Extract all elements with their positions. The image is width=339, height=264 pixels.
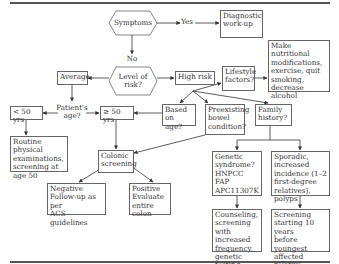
genetic-syndrome-node: Genetic syndrome? HNPCC FAP APC11307K xyxy=(212,151,262,196)
routine-exam-node: Routine physical examinations, screening… xyxy=(10,136,68,172)
under-50-node: < 50 yrs xyxy=(10,106,43,120)
negative-result-node: Negative Follow-up as per ACS guidelines xyxy=(47,183,106,215)
high-risk-node: High risk xyxy=(175,71,215,85)
colorectal-screening-flowchart: Symptoms Yes Diagnostic work-up No Level… xyxy=(0,0,339,264)
average-risk-node: Average xyxy=(57,71,88,85)
level-of-risk-node: Level of risk? xyxy=(109,67,157,95)
symptoms-node: Symptoms xyxy=(109,11,157,35)
no-label: No xyxy=(122,55,142,63)
based-on-age-node: Based on age? xyxy=(162,104,196,126)
preexisting-condition-node: Preexisting bowel condition? xyxy=(205,104,245,135)
positive-result-node: Positive Evaluate entire colon xyxy=(129,183,171,215)
colonic-screening-node: Colonic screening xyxy=(98,150,134,173)
over-50-node: ≥ 50 yrs xyxy=(100,106,134,120)
lifestyle-factors-node: Lifestyle factors? xyxy=(222,66,255,91)
family-history-node: Family history? xyxy=(255,104,292,126)
patients-age-node: Patient's age? xyxy=(56,104,88,121)
screening-10-years-node: Screening starting 10 years before young… xyxy=(271,209,330,252)
diagnostic-workup-node: Diagnostic work-up xyxy=(220,10,263,38)
counseling-node: Counseling, screening with increased fre… xyxy=(212,209,262,252)
lifestyle-action-node: Make nutritional modifications, exercise… xyxy=(268,40,330,92)
sporadic-incidence-node: Sporadic, increased incidence (1–2 first… xyxy=(271,151,330,196)
yes-label: Yes xyxy=(178,18,196,26)
